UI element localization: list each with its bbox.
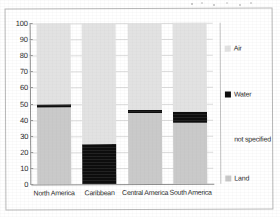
- y-axis-tick-mark: [30, 152, 33, 153]
- bar-segment-air: [36, 23, 70, 104]
- legend-swatch-icon: [225, 92, 231, 98]
- bar-segment-land: [37, 107, 71, 184]
- legend-swatch-icon: [225, 46, 231, 52]
- y-axis-tick-label: 90: [20, 36, 28, 43]
- y-axis-tick-mark: [30, 168, 33, 169]
- legend-item-not-specified: not specified: [225, 135, 271, 143]
- y-axis-tick-mark: [30, 136, 33, 137]
- y-axis-tick-label: 30: [20, 133, 28, 140]
- y-axis-tick-mark: [30, 55, 33, 56]
- y-axis-tick-mark: [30, 71, 33, 72]
- y-axis-tick-label: 50: [20, 100, 28, 107]
- bar-segment-land: [128, 113, 162, 184]
- legend-label: Air: [234, 45, 242, 53]
- chart-frame: 0102030405060708090100 North AmericaCari…: [5, 7, 274, 210]
- bar-segment-land: [173, 123, 207, 184]
- legend-label: not specified: [234, 135, 271, 143]
- y-axis-tick-label: 20: [20, 149, 28, 156]
- bar-segment-water: [173, 111, 207, 122]
- legend-label: Land: [234, 175, 249, 183]
- y-axis-tick-mark: [30, 103, 33, 104]
- bar-caribbean: [82, 23, 117, 184]
- x-axis-label: Central America: [122, 188, 168, 197]
- y-axis-tick-mark: [30, 23, 33, 24]
- x-axis-label: South America: [169, 188, 211, 197]
- legend-label: Water: [234, 91, 251, 99]
- bar-segment-water: [82, 144, 116, 184]
- legend-swatch-icon: [225, 176, 231, 182]
- chart-legend: AirWaternot specifiedLand: [220, 22, 275, 183]
- y-axis: 0102030405060708090100: [6, 23, 31, 183]
- bar-north-america: [36, 23, 71, 184]
- y-axis-tick-label: 60: [20, 84, 28, 91]
- y-axis-tick-label: 0: [24, 181, 28, 188]
- legend-item-land: Land: [225, 175, 249, 183]
- bar-segment-water: [128, 110, 162, 113]
- plot-area: [31, 23, 214, 185]
- bar-segment-air: [82, 23, 117, 144]
- x-axis-label: Caribbean: [85, 188, 115, 197]
- y-axis-tick-label: 40: [20, 117, 28, 124]
- bar-south-america: [173, 23, 208, 184]
- x-axis: North AmericaCaribbeanCentral AmericaSou…: [31, 188, 214, 201]
- bar-segment-air: [173, 23, 207, 112]
- y-axis-tick-label: 80: [20, 52, 28, 59]
- y-axis-tick-label: 70: [20, 68, 28, 75]
- bar-segment-water: [37, 104, 71, 107]
- y-axis-tick-mark: [30, 39, 33, 40]
- y-axis-tick-mark: [30, 120, 33, 121]
- y-axis-tick-label: 10: [20, 165, 28, 172]
- y-axis-tick-label: 100: [16, 20, 28, 27]
- bar-central-america: [127, 23, 162, 184]
- legend-item-water: Water: [225, 91, 251, 99]
- legend-item-air: Air: [225, 45, 242, 53]
- legend-swatch-icon: [225, 137, 231, 143]
- x-axis-label: North America: [34, 188, 75, 197]
- x-axis-line: [31, 184, 214, 186]
- bar-segment-air: [127, 23, 161, 110]
- y-axis-tick-mark: [30, 87, 33, 88]
- y-axis-tick-mark: [30, 184, 33, 185]
